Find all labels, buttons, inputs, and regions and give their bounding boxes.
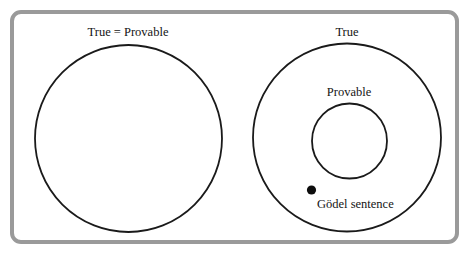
right-panel-title: True (335, 25, 359, 39)
figure-root: True = Provable True Provable Gödel sent… (0, 0, 470, 259)
provable-label: Provable (327, 85, 372, 99)
provable-circle (312, 104, 387, 179)
true-equals-provable-circle (35, 45, 222, 232)
godel-sentence-label: Gödel sentence (317, 197, 394, 211)
diagram-canvas: True = Provable True Provable Gödel sent… (0, 0, 470, 259)
left-panel-title: True = Provable (88, 25, 169, 39)
godel-sentence-point (307, 185, 316, 194)
